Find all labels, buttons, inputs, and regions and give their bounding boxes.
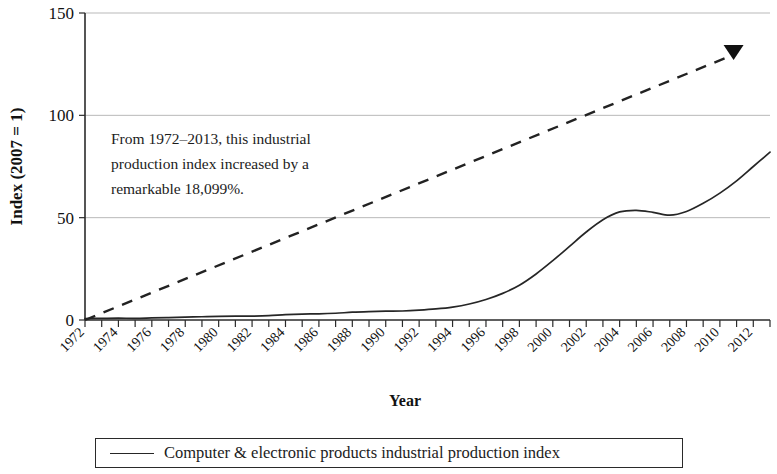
svg-text:1992: 1992 bbox=[391, 325, 421, 355]
svg-text:1980: 1980 bbox=[190, 325, 220, 355]
svg-text:2002: 2002 bbox=[558, 325, 588, 355]
chart-annotation-text: From 1972–2013, this industrial producti… bbox=[111, 126, 411, 201]
svg-text:1974: 1974 bbox=[90, 325, 120, 355]
svg-text:150: 150 bbox=[49, 4, 75, 23]
svg-text:2000: 2000 bbox=[525, 325, 555, 355]
svg-text:1998: 1998 bbox=[491, 325, 521, 355]
svg-text:2006: 2006 bbox=[625, 325, 655, 355]
svg-text:50: 50 bbox=[57, 209, 74, 228]
svg-text:1996: 1996 bbox=[458, 325, 488, 355]
legend-line-swatch-icon bbox=[110, 446, 154, 460]
svg-text:1976: 1976 bbox=[124, 325, 154, 355]
svg-text:2004: 2004 bbox=[591, 325, 621, 355]
svg-text:2012: 2012 bbox=[725, 325, 755, 355]
svg-text:2010: 2010 bbox=[692, 325, 722, 355]
chart-legend: Computer & electronic products industria… bbox=[95, 438, 683, 468]
svg-text:1982: 1982 bbox=[224, 325, 254, 355]
svg-text:1988: 1988 bbox=[324, 325, 354, 355]
svg-text:1994: 1994 bbox=[424, 325, 454, 355]
y-tick-labels: 050100150 bbox=[49, 4, 75, 330]
line-chart: 050100150 197219741976197819801982198419… bbox=[0, 0, 777, 474]
svg-text:1978: 1978 bbox=[157, 325, 187, 355]
svg-text:100: 100 bbox=[49, 106, 75, 125]
chart-figure: 050100150 197219741976197819801982198419… bbox=[0, 0, 777, 474]
legend-label-series-1: Computer & electronic products industria… bbox=[164, 443, 560, 463]
svg-text:Index (2007 = 1): Index (2007 = 1) bbox=[7, 108, 26, 226]
svg-text:1986: 1986 bbox=[291, 325, 321, 355]
svg-text:1984: 1984 bbox=[257, 325, 287, 355]
svg-text:Year: Year bbox=[389, 392, 421, 409]
x-axis bbox=[85, 320, 770, 327]
x-tick-labels: 1972197419761978198019821984198619881990… bbox=[57, 325, 756, 355]
svg-text:2008: 2008 bbox=[658, 325, 688, 355]
y-axis bbox=[79, 13, 85, 320]
svg-text:1972: 1972 bbox=[57, 325, 87, 355]
svg-text:1990: 1990 bbox=[357, 325, 387, 355]
